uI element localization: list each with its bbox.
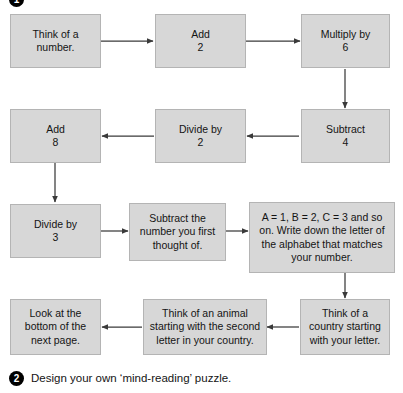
flow-node-divide-by-3: Divide by 3 [10,204,101,258]
flow-node-add-2: Add 2 [155,14,246,68]
flow-node-multiply-by-6: Multiply by 6 [301,14,390,68]
flow-node-divide-by-2: Divide by 2 [155,109,246,163]
flow-node-subtract-4: Subtract 4 [301,109,390,163]
flow-node-subtract-first-number: Subtract the number you first thought of… [129,203,226,261]
flow-node-look-at-next-page: Look at the bottom of the next page. [10,299,101,355]
flow-node-think-of-a-country: Think of a country starting with your le… [300,299,390,355]
flow-node-letter-of-alphabet: A = 1, B = 2, C = 3 and so on. Write dow… [249,202,395,273]
flow-node-add-8: Add 8 [10,109,101,163]
flow-node-think-of-an-animal: Think of an animal starting with the sec… [143,299,267,355]
step-marker-1: 1 [9,0,24,7]
step-marker-2: 2 [9,371,24,386]
footer-instruction: Design your own ‘mind-reading’ puzzle. [31,371,231,386]
worksheet-page: Think of a number. Add 2 Multiply by 6 S… [0,0,403,393]
flow-node-think-of-a-number: Think of a number. [10,14,101,68]
